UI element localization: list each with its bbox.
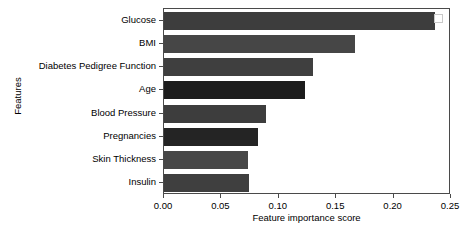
bar (164, 151, 248, 169)
x-tick-label: 0.00 (143, 200, 183, 211)
bar-row (164, 105, 451, 123)
bar-row (164, 174, 451, 192)
bar (164, 81, 305, 99)
x-tick-mark (163, 194, 164, 198)
bar-row (164, 81, 451, 99)
y-tick-label: Blood Pressure (0, 107, 156, 119)
x-tick-label: 0.20 (373, 200, 413, 211)
bar (164, 174, 249, 192)
y-tick-mark (159, 182, 163, 183)
x-tick-label: 0.05 (200, 200, 240, 211)
bar-row (164, 128, 451, 146)
y-tick-label: BMI (0, 37, 156, 49)
bar (164, 105, 266, 123)
y-tick-mark (159, 43, 163, 44)
y-tick-mark (159, 113, 163, 114)
y-tick-label: Diabetes Pedigree Function (0, 60, 156, 72)
bar (164, 35, 355, 53)
x-tick-label: 0.25 (430, 200, 469, 211)
y-tick-label: Insulin (0, 176, 156, 188)
bar-row (164, 12, 451, 30)
y-tick-label: Age (0, 83, 156, 95)
y-tick-mark (159, 89, 163, 90)
bar-row (164, 151, 451, 169)
y-tick-label: Pregnancies (0, 130, 156, 142)
x-tick-mark (393, 194, 394, 198)
x-tick-mark (220, 194, 221, 198)
bar (164, 12, 435, 30)
y-tick-label: Glucose (0, 14, 156, 26)
plot-area (163, 8, 450, 194)
x-tick-label: 0.10 (258, 200, 298, 211)
x-tick-mark (450, 194, 451, 198)
y-tick-mark (159, 159, 163, 160)
x-tick-label: 0.15 (315, 200, 355, 211)
x-tick-mark (278, 194, 279, 198)
y-tick-mark (159, 66, 163, 67)
x-axis-title: Feature importance score (163, 212, 450, 223)
bar (164, 128, 258, 146)
bar-row (164, 35, 451, 53)
y-tick-mark (159, 20, 163, 21)
bar (164, 58, 313, 76)
y-tick-mark (159, 136, 163, 137)
legend-swatch-icon (434, 14, 443, 23)
x-tick-mark (335, 194, 336, 198)
bar-chart-figure: Features GlucoseBMIDiabetes Pedigree Fun… (0, 0, 469, 242)
y-tick-label: Skin Thickness (0, 153, 156, 165)
bar-row (164, 58, 451, 76)
